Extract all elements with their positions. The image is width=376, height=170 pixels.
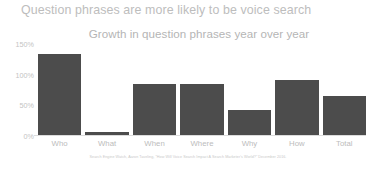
slide-title: Question phrases are more likely to be v… xyxy=(21,3,311,17)
bar-where[interactable] xyxy=(180,84,223,135)
bar-who[interactable] xyxy=(38,54,81,135)
y-tick-label: 0% xyxy=(24,132,34,141)
bar-slot xyxy=(85,44,128,135)
bar-slot xyxy=(228,44,271,135)
x-axis-line xyxy=(34,135,366,136)
x-label-when: When xyxy=(133,139,176,148)
x-label-what: What xyxy=(85,139,128,148)
y-tick-label: 150% xyxy=(16,40,34,49)
y-tick-label: 100% xyxy=(16,70,34,79)
x-label-where: Where xyxy=(180,139,223,148)
chart-title: Growth in question phrases year over yea… xyxy=(0,27,376,40)
x-axis-labels: WhoWhatWhenWhereWhyHowTotal xyxy=(38,139,366,148)
bar-slot xyxy=(323,44,366,135)
bar-when[interactable] xyxy=(133,84,176,135)
y-tick-label: 50% xyxy=(20,101,34,110)
bar-how[interactable] xyxy=(275,80,318,135)
bar-total[interactable] xyxy=(323,96,366,135)
bar-series xyxy=(38,44,366,135)
x-label-who: Who xyxy=(38,139,81,148)
source-attribution: Search Engine Watch, Aaron Taveling, "Ho… xyxy=(0,155,376,159)
bar-slot xyxy=(38,44,81,135)
bar-what[interactable] xyxy=(85,132,128,135)
x-label-why: Why xyxy=(228,139,271,148)
chart-plot-area: 0%50%100%150% xyxy=(38,44,366,136)
bar-why[interactable] xyxy=(228,110,271,135)
bar-slot xyxy=(133,44,176,135)
x-label-how: How xyxy=(275,139,318,148)
bar-slot xyxy=(180,44,223,135)
x-label-total: Total xyxy=(323,139,366,148)
bar-slot xyxy=(275,44,318,135)
